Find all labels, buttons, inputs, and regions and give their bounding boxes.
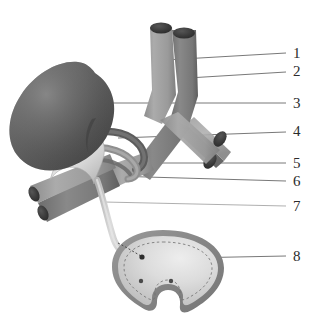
internal-urethral-orifice bbox=[169, 279, 173, 283]
ureteral-orifice-left bbox=[139, 254, 144, 259]
ureteral-orifice-right bbox=[139, 279, 143, 283]
label-3: 3 bbox=[293, 95, 301, 111]
leader-line-7 bbox=[104, 202, 286, 206]
label-1: 1 bbox=[293, 45, 301, 61]
label-2: 2 bbox=[293, 63, 301, 79]
vessel-cut-end-left-top bbox=[150, 23, 172, 34]
urinary-bladder bbox=[112, 230, 224, 312]
leader-line-2 bbox=[188, 72, 286, 78]
urinary-system-diagram: 1 2 3 4 5 6 7 8 bbox=[0, 0, 319, 328]
bladder-lumen bbox=[118, 236, 218, 305]
label-8: 8 bbox=[293, 248, 301, 264]
left-vertical-vessel-body bbox=[144, 27, 176, 124]
label-7: 7 bbox=[293, 198, 301, 214]
label-5: 5 bbox=[293, 155, 301, 171]
number-labels: 1 2 3 4 5 6 7 8 bbox=[293, 45, 301, 264]
label-6: 6 bbox=[293, 173, 301, 189]
label-4: 4 bbox=[293, 123, 301, 139]
vessel-cut-end-right-top bbox=[173, 28, 195, 39]
